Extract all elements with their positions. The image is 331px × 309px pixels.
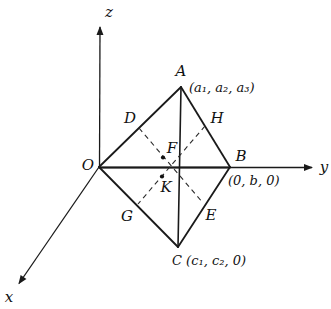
midpoint-D-label: D <box>123 109 136 127</box>
x-axis <box>19 167 99 284</box>
vertex-A-coordinates: (a₁, a₂, a₃) <box>189 80 255 95</box>
midpoint-E-label: E <box>205 206 217 224</box>
vertex-B-label: B <box>234 147 246 165</box>
z-axis <box>100 27 101 167</box>
tetrahedron-midpoints-diagram: z y x O A (a₁, a₂, a₃) B (0, b, 0) C (c₁… <box>0 0 331 309</box>
edge-BC <box>178 167 230 247</box>
geometry-figure: z y x O A (a₁, a₂, a₃) B (0, b, 0) C (c₁… <box>0 0 331 309</box>
point-K-label: K <box>159 178 172 196</box>
edge-AB <box>181 87 230 167</box>
midpoint-G-label: G <box>121 207 133 225</box>
z-axis-label: z <box>104 3 113 21</box>
vertex-A-label: A <box>174 62 187 80</box>
y-axis-label: y <box>319 158 329 176</box>
origin-label: O <box>82 156 94 174</box>
vertex-B-coordinates: (0, b, 0) <box>228 173 280 188</box>
point-F-dot <box>161 155 165 159</box>
midpoint-H-label: H <box>209 109 224 127</box>
x-axis-label: x <box>5 288 14 306</box>
vertex-C-label-with-coordinates: C (c₁, c₂, 0) <box>172 253 246 268</box>
point-F-label: F <box>166 139 178 157</box>
